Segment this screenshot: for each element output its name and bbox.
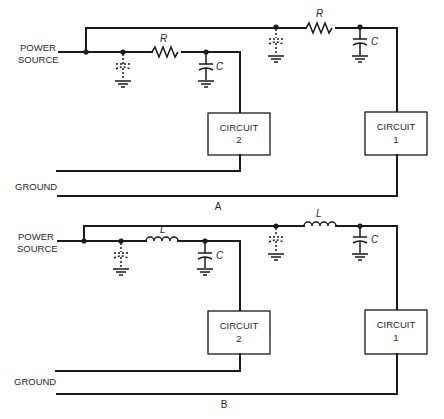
diagram-caption: A bbox=[215, 201, 222, 212]
junction-dot bbox=[83, 49, 88, 54]
circuit-2-block: CIRCUIT 2 bbox=[208, 113, 270, 155]
resistor-icon bbox=[306, 23, 332, 33]
junction-dot bbox=[357, 223, 362, 228]
circuit2-ground-wire bbox=[56, 354, 240, 371]
junction-dot bbox=[120, 49, 125, 54]
top-supply-wire bbox=[86, 28, 276, 52]
circuit1-ground-wire bbox=[58, 155, 397, 196]
junction-dot bbox=[273, 24, 278, 29]
ground-label: GROUND bbox=[15, 181, 57, 192]
circuit-1-block: CIRCUIT 1 bbox=[365, 310, 427, 354]
circuit1-ground-wire bbox=[57, 354, 397, 394]
inductor-label: L bbox=[316, 208, 322, 219]
circuit-diagram-canvas: POWER SOURCE GROUND C bbox=[0, 0, 444, 419]
resistor-icon bbox=[152, 47, 178, 57]
capacitor-label: C bbox=[216, 250, 224, 261]
diagram-a: POWER SOURCE GROUND C bbox=[15, 8, 427, 212]
top-supply-wire bbox=[84, 226, 276, 241]
circuit-number: 1 bbox=[393, 332, 398, 343]
stray-capacitance-icon bbox=[113, 243, 129, 275]
circuit-label: CIRCUIT bbox=[220, 122, 259, 133]
stray-capacitance-icon bbox=[115, 54, 131, 87]
capacitor-icon bbox=[352, 228, 368, 260]
circuit2-ground-wire bbox=[57, 155, 240, 171]
circuit-2-block: CIRCUIT 2 bbox=[208, 311, 270, 354]
ground-label: GROUND bbox=[14, 376, 56, 387]
stray-capacitance-icon bbox=[268, 228, 284, 260]
diagram-b: POWER SOURCE GROUND C L bbox=[14, 208, 427, 410]
circuit2-supply-wire bbox=[182, 52, 240, 113]
junction-dot bbox=[118, 238, 123, 243]
circuit-number: 1 bbox=[393, 134, 398, 145]
capacitor-label: C bbox=[371, 234, 379, 245]
circuit-number: 2 bbox=[236, 333, 241, 344]
circuit-1-block: CIRCUIT 1 bbox=[365, 112, 427, 155]
power-source-label-line2: SOURCE bbox=[17, 243, 58, 254]
capacitor-label: C bbox=[371, 36, 379, 47]
inductor-icon bbox=[146, 237, 178, 241]
capacitor-icon bbox=[352, 29, 368, 62]
circuit-label: CIRCUIT bbox=[220, 320, 259, 331]
circuit1-supply-wire bbox=[336, 28, 397, 113]
junction-dot bbox=[357, 24, 362, 29]
capacitor-label: C bbox=[216, 61, 224, 72]
diagram-caption: B bbox=[221, 399, 228, 410]
junction-dot bbox=[273, 223, 278, 228]
inductor-icon bbox=[304, 222, 336, 226]
power-source-label-line1: POWER bbox=[20, 42, 56, 53]
junction-dot bbox=[81, 238, 86, 243]
circuit2-supply-wire bbox=[178, 241, 240, 311]
junction-dot bbox=[202, 238, 207, 243]
resistor-label: R bbox=[316, 8, 323, 19]
power-source-label-line2: SOURCE bbox=[18, 54, 59, 65]
circuit-label: CIRCUIT bbox=[377, 319, 416, 330]
circuit-label: CIRCUIT bbox=[377, 121, 416, 132]
inductor-label: L bbox=[160, 224, 166, 235]
capacitor-icon bbox=[198, 54, 214, 87]
capacitor-icon bbox=[197, 243, 213, 275]
power-source-label-line1: POWER bbox=[18, 231, 54, 242]
circuit1-supply-wire bbox=[336, 226, 397, 310]
resistor-label: R bbox=[160, 33, 167, 44]
circuit-number: 2 bbox=[236, 134, 241, 145]
junction-dot bbox=[203, 49, 208, 54]
stray-capacitance-icon bbox=[268, 29, 284, 62]
